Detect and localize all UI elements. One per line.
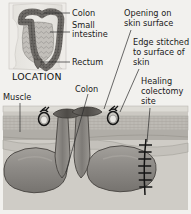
stoma-limb-right — [74, 112, 90, 178]
cross-section-diagram — [3, 106, 188, 210]
label-edge-stitched-line3: skin — [133, 57, 149, 67]
label-colon-main: Colon — [75, 84, 98, 94]
label-healing-line1: Healing — [141, 76, 172, 86]
label-colon-inset: Colon — [72, 8, 95, 18]
fat-layer — [3, 116, 188, 130]
label-healing-line3: site — [141, 96, 156, 106]
label-edge-stitched-line1: Edge stitched — [133, 37, 189, 47]
caption-location: LOCATION — [12, 71, 62, 82]
label-muscle: Muscle — [3, 92, 31, 102]
label-opening-line1: Opening on — [124, 8, 171, 18]
label-small-intestine-line2: intestine — [72, 29, 108, 39]
label-edge-stitched-line2: to surface of — [133, 47, 186, 57]
stoma-limb-left — [55, 114, 70, 178]
colostomy-illustration: Colon Small intestine Rectum LOCATION Op… — [0, 0, 191, 214]
inset-location-diagram — [9, 3, 70, 70]
label-healing-line2: colectomy — [141, 86, 184, 96]
label-opening-line2: skin surface — [124, 18, 173, 28]
label-rectum: Rectum — [72, 57, 103, 67]
label-small-intestine-line1: Small — [72, 20, 95, 30]
illustration-root: Colon Small intestine Rectum LOCATION Op… — [0, 0, 191, 214]
